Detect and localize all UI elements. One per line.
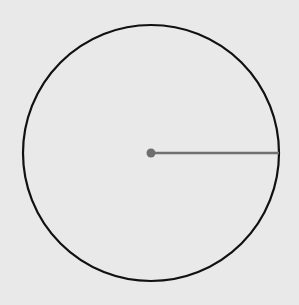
- center-point: [147, 149, 156, 158]
- circle-diagram: [0, 0, 299, 305]
